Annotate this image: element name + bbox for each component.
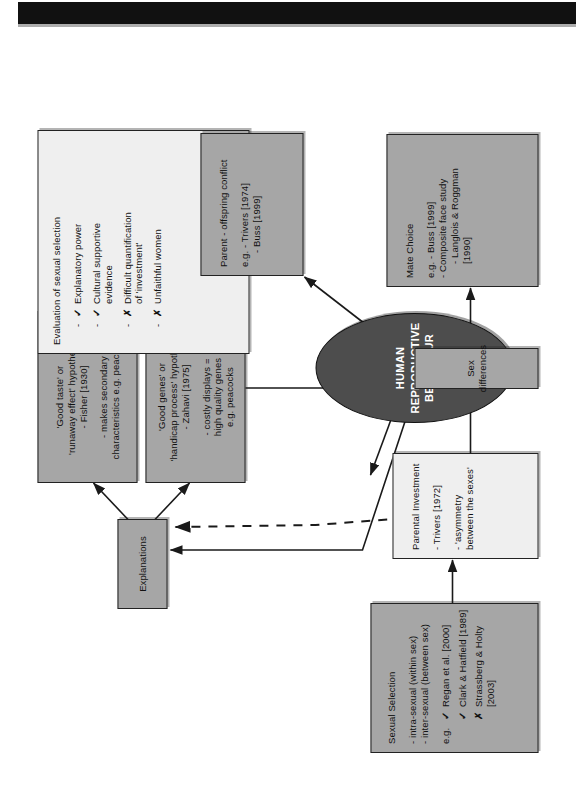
sexual-selection-body-2: - inter-sexual (between sex) [418,604,430,752]
cross-icon: ✗ [121,308,133,317]
evaluation-item-label: Cultural supportive evidence [90,222,114,303]
check-icon: ✓ [90,308,102,317]
sexual-selection-item-list: e.g.✓Regan et al. [2000]✓Clark & Hatfiel… [439,604,497,752]
node-sexual-selection[interactable]: Sexual Selection - intra-sexual (within … [371,603,539,753]
sexual-selection-item: ✗Strassberg & Holty [2003] [473,604,497,744]
evaluation-item: -✓Explanatory power [71,131,83,327]
good-genes-body-1: - costly displays = [200,350,212,443]
cross-icon: ✗ [152,308,164,317]
sexual-selection-title: Sexual Selection [386,604,398,752]
parent-offspring-body-2: - Buss [1999] [250,134,262,275]
diagram-page: Explanations 'Good taste' or 'runaway ef… [0,0,576,789]
evaluation-item: -✗Unfaithful women [152,131,164,327]
parental-investment-spacer-2 [442,454,451,558]
check-icon: ✓ [71,308,83,317]
check-icon: ✓ [456,711,468,720]
good-genes-body-3: e.g. peacocks [224,359,236,435]
evaluation-item: -✗Difficult quantification of 'investmen… [121,131,145,327]
parental-investment-spacer [421,454,430,558]
mate-choice-body-2: - Composite face study [436,135,448,286]
good-taste-title-1: 'Good taste' or [53,357,65,436]
check-icon: ✓ [439,711,451,720]
sexual-selection-item-label: Strassberg & Holty [2003] [473,604,497,707]
sex-differences-label: Sex differences [465,344,489,391]
sexual-selection-spacer-2 [430,604,439,752]
sexual-selection-item: e.g.✓Regan et al. [2000] [439,604,451,744]
evaluation-spacer [62,131,71,353]
bullet-dash: - [152,321,164,327]
bullet-dash: - [71,321,83,327]
parental-investment-body-1: - Trivers [1972] [430,454,442,558]
node-explanations-label: Explanations [137,528,149,600]
node-sex-differences[interactable]: Sex differences [415,348,539,389]
sexual-selection-item-label: Regan et al. [2000] [439,624,451,706]
evaluation-item-label: Unfaithful women [152,229,164,304]
node-mate-choice[interactable]: Mate Choice e.g. - Buss [1999] - Composi… [387,134,539,287]
good-genes-title-3: - Zahavi [1975] [179,356,191,437]
mate-choice-body-3: - Langlois & Roggman [1990] [448,135,472,286]
bullet-dash: - [121,321,133,327]
parent-offspring-title: Parent - offspring conflict [218,134,230,275]
node-parental-investment[interactable]: Parental Investment - Trivers [1972] - '… [393,453,539,559]
diagram-canvas-wrapper: Explanations 'Good taste' or 'runaway ef… [0,0,576,789]
node-parent-offspring-conflict[interactable]: Parent - offspring conflict e.g. - Trive… [201,133,304,276]
evaluation-item: -✓Cultural supportive evidence [90,131,114,327]
evaluation-title: Evaluation of sexual selection [51,131,63,353]
diagram-canvas: Explanations 'Good taste' or 'runaway ef… [16,15,561,775]
parent-offspring-body-1: e.g. - Trivers [1974] [238,134,250,275]
good-taste-body-1: - makes secondary [98,348,110,446]
edge-explanations-to-good-genes [155,483,190,520]
good-genes-body-2: high quality genes [212,349,224,443]
parental-investment-title: Parental Investment [410,454,422,558]
parental-investment-body-2: - 'asymmetry between the sexes' [451,454,475,558]
sexual-selection-spacer-1 [397,604,406,752]
evaluation-item-label: Difficult quantification of 'investment' [121,212,145,304]
good-genes-title-1: 'Good genes' or [155,355,167,439]
sexual-selection-item-label: Clark & Hatfield [1989] [456,609,468,706]
bullet-dash: - [90,321,102,327]
cross-icon: ✗ [473,711,485,720]
node-explanations[interactable]: Explanations [118,519,168,609]
good-taste-title-3: - Fisher [1930] [77,357,89,436]
edge-explanations-to-good-taste [94,483,129,520]
parent-offspring-spacer [229,134,238,275]
evaluation-item-label: Explanatory power [71,223,83,303]
sexual-selection-item: ✓Clark & Hatfield [1989] [456,604,468,744]
mate-choice-spacer [415,135,424,286]
mate-choice-body-1: e.g. - Buss [1999] [424,135,436,286]
evaluation-item-list: -✓Explanatory power-✓Cultural supportive… [71,131,163,353]
item-prefix: e.g. [439,724,451,744]
mate-choice-title: Mate Choice [404,135,416,286]
sexual-selection-body-1: - intra-sexual (within sex) [406,604,418,752]
